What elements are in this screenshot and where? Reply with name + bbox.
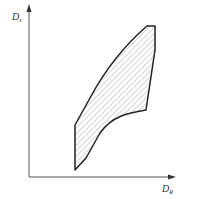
feasible-region [75,26,155,170]
diagram-canvas: Ds DR [0,0,199,199]
x-axis [29,175,176,180]
y-axis [27,4,32,177]
x-axis-arrow-icon [168,175,176,180]
y-axis-label: Ds [11,11,22,23]
y-axis-arrow-icon [27,4,32,12]
x-axis-label: DR [161,183,173,195]
